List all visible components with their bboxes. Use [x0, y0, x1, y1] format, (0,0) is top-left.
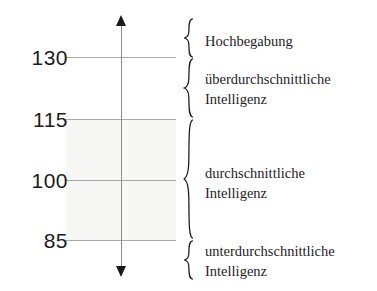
label-durchschnittliche-line-1: durchschnittliche [205, 163, 305, 183]
brace-durchschnittliche-intelligenz [183, 119, 195, 239]
label-unterdurchschnittliche-intelligenz: unterdurchschnittliche Intelligenz [205, 241, 335, 281]
label-hochbegabung-line-1: Hochbegabung [205, 31, 293, 51]
label-ueberdurchschnittliche-intelligenz: überdurchschnittliche Intelligenz [205, 69, 331, 109]
label-durchschnittliche-line-2: Intelligenz [205, 183, 305, 203]
brace-hochbegabung [183, 18, 195, 58]
brace-unterdurchschnittliche-intelligenz [183, 240, 195, 280]
axis-arrow-up-icon [116, 15, 126, 26]
tick-label-130: 130 [0, 47, 68, 68]
brace-ueberdurchschnittliche-intelligenz [183, 58, 195, 118]
label-ueberdurchschnittliche-line-2: Intelligenz [205, 89, 331, 109]
iq-scale-diagram: 130 115 100 85 Hochbegabung überdurchsch… [0, 0, 377, 291]
label-durchschnittliche-intelligenz: durchschnittliche Intelligenz [205, 163, 305, 203]
axis-arrow-down-icon [116, 266, 126, 277]
label-unterdurchschnittliche-line-2: Intelligenz [205, 261, 335, 281]
label-unterdurchschnittliche-line-1: unterdurchschnittliche [205, 241, 335, 261]
vertical-axis-line [121, 20, 122, 274]
label-hochbegabung: Hochbegabung [205, 31, 293, 51]
tick-label-100: 100 [0, 170, 68, 191]
tick-label-115: 115 [0, 109, 68, 130]
label-ueberdurchschnittliche-line-1: überdurchschnittliche [205, 69, 331, 89]
tick-label-85: 85 [0, 230, 68, 251]
